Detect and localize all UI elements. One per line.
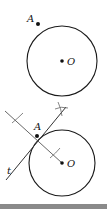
point-a-1 xyxy=(36,22,40,26)
label-o-2: O xyxy=(67,158,75,169)
figure-1: A O xyxy=(26,13,97,96)
label-o-1: O xyxy=(67,56,75,67)
center-o-1 xyxy=(60,59,64,63)
center-o-2 xyxy=(60,161,64,165)
arc-mark-top-1 xyxy=(55,107,68,109)
label-a-1: A xyxy=(26,13,34,24)
diagram-canvas: A O A O t xyxy=(0,0,107,212)
point-a-2 xyxy=(35,134,39,138)
label-a-2: A xyxy=(33,121,41,132)
divider-bar xyxy=(0,204,107,209)
tangent-line-t xyxy=(6,107,66,180)
arc-mark-upper-left xyxy=(12,113,23,123)
figure-2: A O t xyxy=(5,102,95,196)
